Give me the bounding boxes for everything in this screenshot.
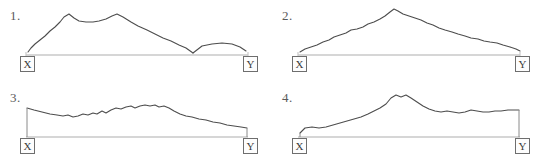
profile-panel-3: 3. X Y: [0, 82, 271, 163]
profile-chart-3: [0, 82, 271, 163]
profile-4-end-marker[interactable]: Y: [515, 138, 530, 154]
profile-3-end-marker[interactable]: Y: [243, 138, 258, 154]
elevation-profiles-grid: 1. X Y 2. X Y 3. X Y: [0, 0, 543, 163]
elevation-curve-4: [300, 95, 519, 133]
elevation-curve-1: [28, 14, 193, 53]
profile-panel-4: 4. X Y: [272, 82, 543, 163]
elevation-curve-3: [27, 105, 247, 128]
profile-chart-1: [0, 0, 271, 81]
profile-1-start-marker[interactable]: X: [20, 56, 35, 72]
profile-panel-1: 1. X Y: [0, 0, 271, 81]
elevation-curve-2: [300, 9, 520, 52]
profile-2-start-marker[interactable]: X: [292, 56, 307, 72]
profile-3-start-marker[interactable]: X: [20, 138, 35, 154]
profile-4-start-marker[interactable]: X: [292, 138, 307, 154]
profile-chart-2: [272, 0, 543, 81]
profile-panel-2: 2. X Y: [272, 0, 543, 81]
profile-2-end-marker[interactable]: Y: [515, 56, 530, 72]
elevation-curve-1-tail: [193, 43, 246, 53]
profile-1-end-marker[interactable]: Y: [243, 56, 258, 72]
profile-chart-4: [272, 82, 543, 163]
